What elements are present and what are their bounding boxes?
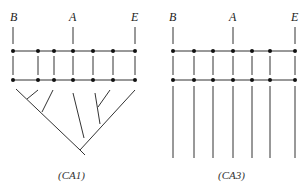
label-e: E — [130, 10, 139, 24]
diagram-canvas: B A E — [0, 0, 308, 188]
label-b: B — [10, 10, 18, 24]
caption-ca3: (CA3) — [218, 169, 245, 182]
label-b: B — [169, 10, 177, 24]
caption-ca1: (CA1) — [58, 169, 85, 182]
tree — [16, 89, 135, 155]
label-e: E — [290, 10, 299, 24]
diagram-ca1: B A E — [10, 10, 139, 182]
diagram-ca3: B A E — [169, 10, 299, 182]
label-a: A — [68, 10, 77, 24]
parallel-lines — [173, 86, 295, 158]
label-a: A — [228, 10, 237, 24]
